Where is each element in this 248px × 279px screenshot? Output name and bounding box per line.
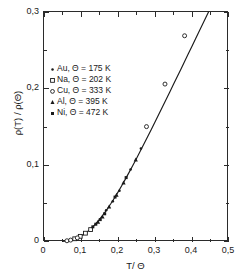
x-tick-label-0.2: 0,2 xyxy=(102,246,132,255)
plot-area xyxy=(43,11,228,241)
data-point xyxy=(107,205,111,209)
data-point xyxy=(84,231,88,235)
x-tick-label-0.1: 0,1 xyxy=(65,246,95,255)
legend-label-au: Au, Θ = 175 K xyxy=(57,63,111,74)
legend-row-na: Na, Θ = 202 K xyxy=(48,74,144,85)
legend-label-ni: Ni, Θ = 472 K xyxy=(57,107,108,118)
y-tick-label-0: 0 xyxy=(5,236,39,245)
legend-label-cu: Cu, Θ = 333 K xyxy=(57,85,111,96)
x-tick-label-0.4: 0,4 xyxy=(176,246,206,255)
data-point xyxy=(118,189,121,192)
plot-canvas xyxy=(44,12,229,242)
data-point xyxy=(75,236,79,240)
resistivity-chart-figure: 0,3 0,2 0,1 0 0 0,1 0,2 0,3 0,4 0,5 ρ(T)… xyxy=(0,0,248,279)
legend-row-cu: Cu, Θ = 333 K xyxy=(48,85,144,96)
axis-ticks xyxy=(44,12,229,242)
series-markers-au xyxy=(105,147,142,211)
data-point xyxy=(112,200,115,203)
x-tick-label-0: 0 xyxy=(28,246,58,255)
bloch-gruneisen-curve xyxy=(63,12,209,241)
data-point xyxy=(125,176,128,179)
legend-row-ni: Ni, Θ = 472 K xyxy=(48,107,144,118)
data-point xyxy=(94,223,97,226)
legend-row-al: Al, Θ = 395 K xyxy=(48,96,144,107)
legend-row-au: Au, Θ = 175 K xyxy=(48,63,144,74)
open-square-icon xyxy=(48,74,57,85)
x-tick-label-0.5: 0,5 xyxy=(213,246,243,255)
data-point xyxy=(105,209,108,212)
data-point xyxy=(140,147,143,150)
x-axis-tick-labels: 0 0,1 0,2 0,3 0,4 0,5 xyxy=(43,246,228,258)
data-point xyxy=(91,225,94,228)
x-tick-label-0.3: 0,3 xyxy=(139,246,169,255)
data-point xyxy=(103,212,106,215)
filled-triangle-icon xyxy=(48,96,57,107)
data-point xyxy=(129,168,132,171)
x-axis-title: T/ Θ xyxy=(43,261,228,271)
filled-square-icon xyxy=(48,107,57,118)
y-axis-title: ρ(T) / ρ(Θ) xyxy=(13,53,23,173)
data-point xyxy=(69,238,73,242)
data-point xyxy=(99,218,102,221)
y-tick-label-0.3: 0,3 xyxy=(5,7,39,16)
data-point xyxy=(144,125,148,129)
data-point xyxy=(183,34,187,38)
legend-label-al: Al, Θ = 395 K xyxy=(57,96,108,107)
small-filled-circle-icon xyxy=(48,63,57,74)
data-point xyxy=(163,82,167,86)
open-circle-icon xyxy=(48,85,57,96)
legend: Au, Θ = 175 K Na, Θ = 202 K Cu, Θ = 333 … xyxy=(48,63,144,118)
legend-label-na: Na, Θ = 202 K xyxy=(57,74,111,85)
data-point xyxy=(114,196,117,199)
